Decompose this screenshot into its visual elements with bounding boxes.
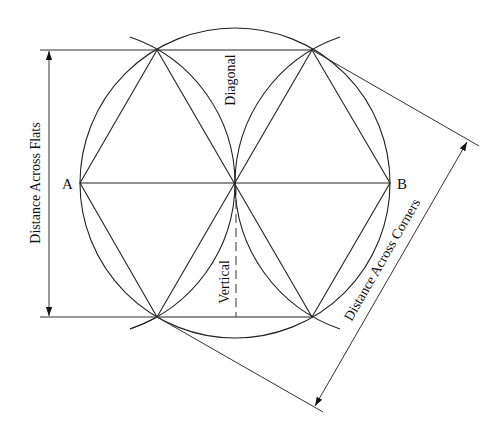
label-across-flats: Distance Across Flats xyxy=(28,122,43,243)
label-diagonal: Diagonal xyxy=(223,54,238,105)
label-vertical: Vertical xyxy=(217,260,232,304)
label-across-corners: Distance Across Corners xyxy=(341,196,423,323)
label-point-a: A xyxy=(62,176,73,192)
top-right-corner-extension xyxy=(312,50,479,146)
across-corners-dimension-arrow xyxy=(315,142,467,406)
hexagon-diagram: A B Diagonal Vertical Distance Across Fl… xyxy=(0,0,503,443)
bottom-left-corner-extension xyxy=(157,317,323,412)
label-point-b: B xyxy=(397,176,407,192)
arc-centered-a-lower-tick xyxy=(130,317,157,329)
